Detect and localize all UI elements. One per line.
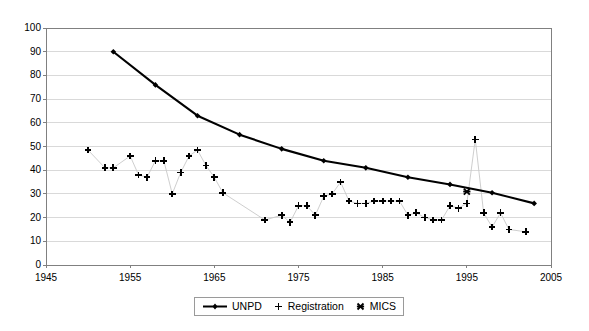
data-point-unpd [489, 190, 495, 196]
legend-plus-icon [273, 301, 284, 312]
x-axis-label: 1955 [110, 273, 150, 283]
data-point-registration [463, 200, 470, 207]
legend-label: Registration [288, 301, 344, 312]
x-axis-label: 1995 [447, 273, 487, 283]
legend-line-diamond-icon [202, 301, 228, 312]
data-point-registration [354, 200, 361, 207]
y-axis-label: 60 [6, 118, 41, 128]
data-point-registration [522, 228, 529, 235]
x-axis-label: 1985 [363, 273, 403, 283]
legend-item-registration[interactable]: Registration [273, 301, 344, 312]
data-point-registration [329, 191, 336, 198]
legend-item-unpd[interactable]: UNPD [202, 301, 262, 312]
data-point-registration [455, 205, 462, 212]
data-point-registration [160, 157, 167, 164]
x-axis-label: 1945 [26, 273, 66, 283]
data-point-registration [135, 172, 142, 179]
data-point-registration [203, 162, 210, 169]
data-point-registration [447, 202, 454, 209]
legend-label: MICS [370, 301, 396, 312]
data-point-unpd [405, 175, 411, 181]
data-point-registration [194, 147, 201, 154]
data-point-registration [127, 153, 134, 160]
y-axis-label: 90 [6, 47, 41, 57]
data-point-registration [480, 209, 487, 216]
y-axis-label: 70 [6, 94, 41, 104]
y-axis-label: 50 [6, 142, 41, 152]
series-line-unpd [113, 52, 534, 204]
y-axis-label: 20 [6, 213, 41, 223]
data-point-registration [219, 189, 226, 196]
data-point-registration [169, 191, 176, 198]
data-point-registration [388, 198, 395, 205]
data-point-registration [413, 209, 420, 216]
legend-cross-icon [355, 301, 366, 312]
data-point-registration [346, 198, 353, 205]
data-point-registration [472, 136, 479, 143]
data-point-registration [211, 174, 218, 181]
data-point-registration [144, 174, 151, 181]
y-axis-label: 0 [6, 260, 41, 270]
data-point-unpd [531, 201, 537, 207]
data-point-registration [379, 198, 386, 205]
y-axis-label: 40 [6, 165, 41, 175]
x-axis-label: 1965 [194, 273, 234, 283]
y-axis-label: 80 [6, 70, 41, 80]
data-point-registration [362, 200, 369, 207]
data-point-registration [506, 226, 513, 233]
data-point-registration [489, 224, 496, 231]
y-axis-label: 100 [6, 23, 41, 33]
data-point-registration [396, 198, 403, 205]
data-point-registration [337, 179, 344, 186]
data-point-unpd [447, 182, 453, 188]
x-axis-label: 2005 [531, 273, 571, 283]
data-point-registration [295, 202, 302, 209]
data-point-registration [371, 198, 378, 205]
data-point-registration [186, 153, 193, 160]
y-axis-label: 10 [6, 236, 41, 246]
legend-label: UNPD [232, 301, 262, 312]
data-point-registration [421, 214, 428, 221]
legend-item-mics[interactable]: MICS [355, 301, 396, 312]
x-axis-label: 1975 [279, 273, 319, 283]
data-point-unpd [321, 158, 327, 164]
data-point-registration [497, 209, 504, 216]
chart-legend: UNPDRegistrationMICS [194, 297, 404, 316]
chart-container: 0102030405060708090100194519551965197519… [0, 0, 589, 331]
data-point-registration [152, 157, 159, 164]
y-axis-label: 30 [6, 189, 41, 199]
